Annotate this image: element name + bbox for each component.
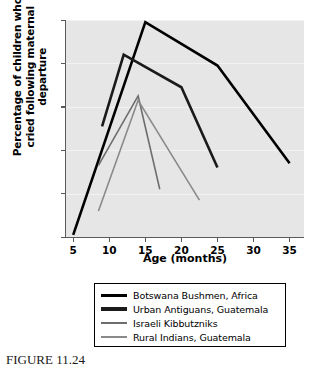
x-axis-title: Age (months) (66, 252, 304, 265)
x-tick-mark (109, 237, 110, 242)
x-tick-mark (289, 237, 290, 242)
line-chart: Percentage of children who cried followi… (0, 0, 320, 278)
legend-item: Urban Antiguans, Guatemala (101, 302, 285, 316)
series-line (73, 22, 289, 235)
legend: Botswana Bushmen, AfricaUrban Antiguans,… (94, 283, 286, 347)
series-lines (66, 20, 304, 237)
x-tick-mark (145, 237, 146, 242)
plot-area: 020406080100 5101520253035 (66, 20, 304, 237)
legend-swatch (101, 294, 127, 297)
x-tick-mark (73, 237, 74, 242)
y-axis-title-line1: Percentage of children who (11, 0, 24, 177)
legend-swatch (101, 336, 127, 338)
legend-label: Rural Indians, Guatemala (133, 332, 251, 343)
legend-label: Urban Antiguans, Guatemala (133, 304, 268, 315)
legend-swatch (101, 322, 127, 324)
legend-label: Botswana Bushmen, Africa (133, 290, 258, 301)
legend-item: Rural Indians, Guatemala (101, 330, 285, 344)
y-axis-title: Percentage of children who cried followi… (11, 0, 49, 177)
legend-item: Israeli Kibbutzniks (101, 316, 285, 330)
legend-label: Israeli Kibbutzniks (133, 318, 218, 329)
y-axis-title-line2: cried following maternal departure (24, 0, 49, 177)
figure-container: Percentage of children who cried followi… (0, 0, 320, 370)
x-tick-mark (253, 237, 254, 242)
x-axis-line (65, 237, 304, 238)
x-tick-mark (217, 237, 218, 242)
legend-item: Botswana Bushmen, Africa (101, 288, 285, 302)
figure-caption: FIGURE 11.24 (6, 352, 85, 368)
legend-swatch (101, 307, 127, 310)
x-tick-mark (181, 237, 182, 242)
